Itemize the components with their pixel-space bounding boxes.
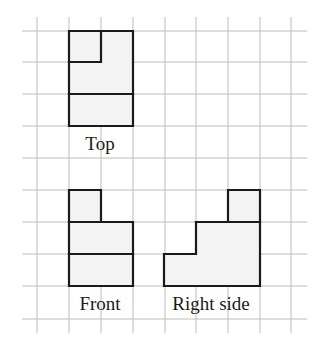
front-view-label: Front [79, 293, 121, 314]
orthographic-views-diagram: Top Front Right side [0, 0, 331, 346]
top-view-label: Top [85, 133, 114, 154]
grid-canvas: Top Front Right side [0, 0, 331, 346]
right-side-view-fill [164, 190, 260, 286]
right-side-view-label: Right side [172, 293, 250, 314]
